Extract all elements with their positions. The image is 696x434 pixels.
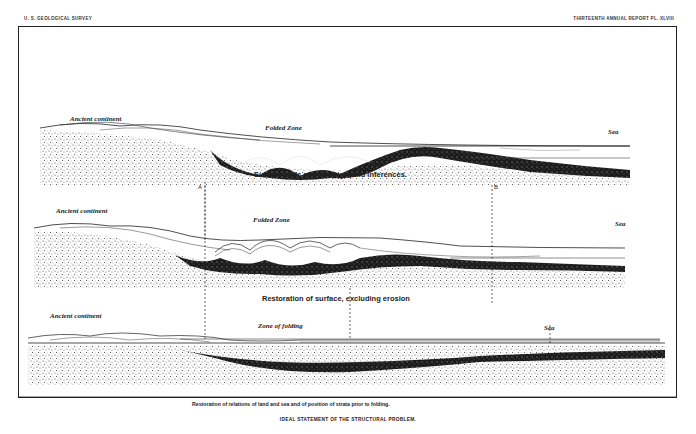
ancient-continent-label-1: Ancient continent bbox=[70, 115, 122, 123]
sea-label-3: Sea bbox=[544, 324, 555, 332]
sea-label-1: Sea bbox=[608, 128, 619, 136]
ancient-continent-label-3: Ancient continent bbox=[50, 312, 102, 320]
plate-title: IDEAL STATEMENT OF THE STRUCTURAL PROBLE… bbox=[0, 417, 696, 422]
marker-b: B bbox=[494, 184, 498, 190]
section-2-caption: Restoration of surface, excluding erosio… bbox=[262, 294, 410, 303]
marker-a: A bbox=[198, 184, 202, 190]
section-3-caption: Restoration of relations of land and sea… bbox=[192, 401, 390, 407]
folded-zone-label-2: Folded Zone bbox=[253, 216, 290, 224]
cross-section-diagrams bbox=[0, 0, 696, 434]
sea-label-2: Sea bbox=[615, 220, 626, 228]
section-1-caption: Surface facts and underground inferences… bbox=[254, 170, 407, 179]
zone-of-folding-label: Zone of folding bbox=[258, 322, 303, 330]
section-2-restoration-surface bbox=[34, 223, 625, 288]
section-3-prior-to-folding bbox=[28, 333, 665, 385]
folded-zone-label-1: Folded Zone bbox=[265, 124, 302, 132]
ancient-continent-label-2: Ancient continent bbox=[56, 207, 108, 215]
